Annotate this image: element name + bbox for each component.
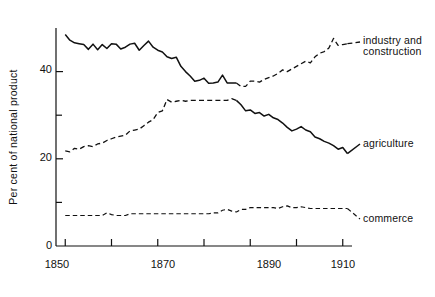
- y-tick-label-0: 0: [34, 239, 52, 251]
- series-label-agriculture: agriculture: [363, 138, 414, 150]
- y-tick-label-20: 20: [34, 151, 52, 163]
- line-agriculture-solid: [236, 100, 347, 153]
- y-axis-label-wrap: Per cent of national product: [2, 28, 24, 246]
- y-axis-ticks: [56, 72, 63, 203]
- leader-line-agriculture: [347, 144, 360, 154]
- x-tick-label-1870: 1870: [143, 258, 183, 270]
- data-lines: [65, 35, 347, 216]
- leader-line-commerce: [347, 209, 360, 220]
- x-tick-label-1850: 1850: [37, 258, 77, 270]
- x-tick-label-1890: 1890: [249, 258, 289, 270]
- y-tick-label-40: 40: [34, 63, 52, 75]
- axes: [56, 28, 352, 246]
- leader-lines: [347, 42, 360, 219]
- y-axis-label: Per cent of national product: [7, 69, 19, 204]
- series-label-industry-line2: construction: [363, 46, 421, 58]
- line-industry-and-construction-dashed: [236, 38, 347, 86]
- series-label-commerce: commerce: [363, 213, 413, 225]
- chart-figure: Per cent of national product 40 20 0 185…: [0, 0, 435, 297]
- x-tick-label-1910: 1910: [323, 258, 363, 270]
- line-commerce: [65, 206, 347, 216]
- line-agriculture-dashed: [65, 99, 236, 152]
- leader-line-industry: [347, 42, 360, 44]
- line-industry-and-construction-solid: [65, 35, 236, 84]
- x-axis-ticks: [65, 239, 343, 246]
